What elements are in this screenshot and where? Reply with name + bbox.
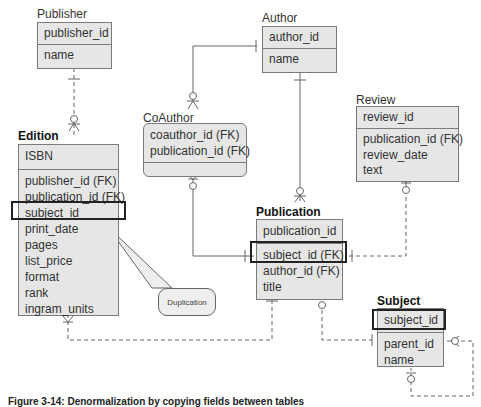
edition-attr: publisher_id (FK)	[25, 173, 112, 189]
publisher-title: Publisher	[37, 7, 87, 21]
author-pk: author_id	[263, 27, 336, 49]
edition-title: Edition	[18, 129, 59, 143]
publication-title: Publication	[256, 205, 321, 219]
coauthor-entity[interactable]: coauthor_id (FK) publication_id (FK)	[143, 123, 247, 177]
coauthor-key: coauthor_id (FK)	[150, 127, 240, 143]
edition-attr: print_date	[25, 221, 112, 237]
publication-subject-highlight	[250, 241, 347, 263]
edition-attr: pages	[25, 237, 112, 253]
edition-attr: list_price	[25, 253, 112, 269]
subject-attr: parent_id	[384, 336, 437, 352]
edition-subject-highlight	[11, 201, 126, 220]
author-attr: name	[269, 52, 330, 68]
edition-attr: ingram_units	[25, 301, 112, 317]
author-entity[interactable]: author_id name	[262, 26, 337, 73]
publication-attr: author_id (FK)	[263, 263, 336, 279]
review-entity[interactable]: review_id publication_id (FK) review_dat…	[356, 106, 459, 182]
subject-attr: name	[384, 352, 437, 368]
publisher-pk: publisher_id	[38, 23, 111, 45]
review-pk: review_id	[357, 107, 458, 129]
duplication-callout: Duplication	[158, 288, 216, 316]
review-title: Review	[356, 93, 395, 107]
review-attr: publication_id (FK)	[363, 132, 452, 148]
figure-caption: Figure 3-14: Denormalization by copying …	[8, 396, 304, 407]
subject-pk-highlight	[372, 309, 446, 330]
review-attr: text	[363, 163, 452, 179]
coauthor-key: publication_id (FK)	[150, 143, 240, 159]
edition-attr: rank	[25, 285, 112, 301]
publication-attr: title	[263, 279, 336, 295]
edition-pk: ISBN	[19, 145, 118, 170]
subject-title: Subject	[377, 294, 420, 308]
review-attr: review_date	[363, 148, 452, 164]
edition-attr: format	[25, 269, 112, 285]
publisher-entity[interactable]: publisher_id name	[37, 22, 112, 69]
publisher-attr: name	[44, 48, 105, 64]
author-title: Author	[262, 11, 297, 25]
edition-entity[interactable]: ISBN publisher_id (FK) publication_id (F…	[18, 144, 119, 316]
